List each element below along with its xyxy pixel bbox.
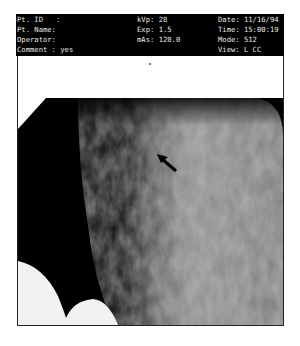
- mammogram-image-frame: [17, 56, 284, 326]
- image-info-header: Pt. ID : Pt. Name: Operator: Comment : y…: [16, 14, 284, 56]
- comment-label: Comment : yes: [17, 45, 73, 55]
- mammogram-image: [18, 56, 283, 325]
- date-value: Date: 11/16/94: [218, 15, 279, 25]
- patient-info-column: Pt. ID : Pt. Name: Operator: Comment : y…: [17, 15, 73, 55]
- study-info-column: Date: 11/16/94 Time: 15:00:19 Mode: 512 …: [218, 15, 279, 55]
- exposure-value: Exp: 1.5: [137, 25, 180, 35]
- patient-id-label: Pt. ID :: [17, 15, 73, 25]
- marker-dot: [149, 63, 151, 65]
- exposure-info-column: kVp: 28 Exp: 1.5 mAs: 120.0: [137, 15, 180, 45]
- operator-label: Operator:: [17, 35, 73, 45]
- mas-value: mAs: 120.0: [137, 35, 180, 45]
- mode-value: Mode: 512: [218, 35, 279, 45]
- time-value: Time: 15:00:19: [218, 25, 279, 35]
- view-value: View: L CC: [218, 45, 279, 55]
- kvp-value: kVp: 28: [137, 15, 180, 25]
- patient-name-label: Pt. Name:: [17, 25, 73, 35]
